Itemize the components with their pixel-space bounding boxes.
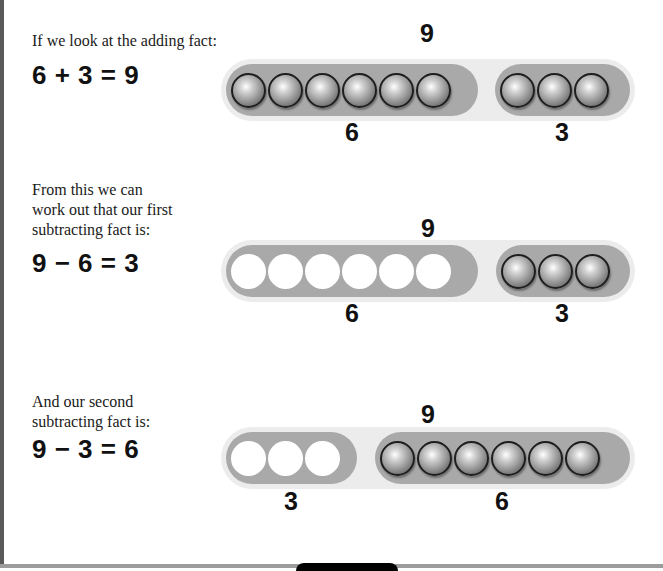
bead-icon: [501, 254, 536, 289]
caption-line: From this we can: [32, 180, 172, 200]
bead-icon: [565, 441, 600, 476]
page-bottom-tab: [296, 563, 398, 571]
caption-line: subtracting fact is:: [32, 412, 150, 432]
caption-line: If we look at the adding fact:: [32, 31, 217, 51]
total-label: 9: [408, 214, 448, 242]
bead-icon: [231, 73, 266, 108]
group-label: 3: [271, 487, 311, 515]
bead-icon: [454, 441, 489, 476]
equation-adding: 6 + 3 = 9: [32, 60, 139, 91]
equation-first-subtracting: 9 − 6 = 3: [32, 248, 139, 279]
empty-slot: [416, 254, 451, 289]
empty-slot: [268, 254, 303, 289]
bead-group-6-filled: [226, 64, 478, 116]
caption-line: And our second: [32, 392, 150, 412]
caption-adding: If we look at the adding fact:: [32, 31, 217, 51]
empty-slot: [379, 254, 414, 289]
equation-second-subtracting: 9 − 3 = 6: [32, 434, 139, 465]
caption-second-subtracting: And our second subtracting fact is:: [32, 392, 150, 432]
bead-icon: [417, 441, 452, 476]
bead-group-3-empty: [226, 432, 357, 484]
total-label: 9: [407, 19, 447, 47]
page-edge-strip: [0, 0, 4, 568]
empty-slot: [342, 254, 377, 289]
caption-line: work out that our first: [32, 200, 172, 220]
bead-group-3-filled: [495, 64, 630, 116]
bead-icon: [305, 73, 340, 108]
bead-icon: [491, 441, 526, 476]
bead-icon: [575, 254, 610, 289]
group-label: 6: [332, 299, 372, 327]
caption-first-subtracting: From this we can work out that our first…: [32, 180, 172, 240]
empty-slot: [231, 441, 266, 476]
empty-slot: [231, 254, 266, 289]
bead-group-3-filled: [496, 245, 630, 297]
bead-icon: [538, 254, 573, 289]
bead-group-6-filled: [375, 432, 630, 484]
group-label: 6: [482, 487, 522, 515]
caption-line: subtracting fact is:: [32, 220, 172, 240]
bead-icon: [342, 73, 377, 108]
bead-icon: [574, 73, 609, 108]
group-label: 3: [542, 299, 582, 327]
bead-icon: [268, 73, 303, 108]
empty-slot: [305, 441, 340, 476]
group-label: 3: [542, 118, 582, 146]
bead-icon: [528, 441, 563, 476]
bead-icon: [500, 73, 535, 108]
bead-icon: [416, 73, 451, 108]
bead-icon: [380, 441, 415, 476]
empty-slot: [305, 254, 340, 289]
group-label: 6: [332, 118, 372, 146]
bead-icon: [537, 73, 572, 108]
total-label: 9: [408, 400, 448, 428]
empty-slot: [268, 441, 303, 476]
bead-icon: [379, 73, 414, 108]
bead-group-6-empty: [226, 245, 478, 297]
